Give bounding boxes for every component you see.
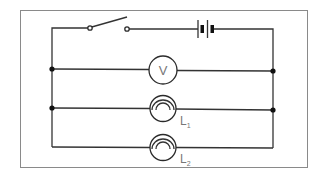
junction-dot bbox=[270, 68, 275, 73]
lamp-icon bbox=[150, 96, 176, 122]
lamp-l2-label: L2 bbox=[180, 152, 191, 167]
junction-dot bbox=[270, 107, 275, 112]
voltmeter-label: V bbox=[159, 63, 168, 78]
voltmeter-icon: V bbox=[149, 56, 177, 84]
lamp-l2-branch: L2 bbox=[52, 135, 273, 168]
switch-icon bbox=[88, 17, 129, 31]
circuit-diagram: V L1 L2 bbox=[0, 0, 319, 180]
lamp-icon bbox=[150, 135, 176, 161]
lamp-l1-label: L1 bbox=[180, 114, 191, 129]
battery-icon bbox=[198, 20, 214, 38]
junction-dot bbox=[49, 105, 54, 110]
voltmeter-branch: V bbox=[52, 56, 273, 84]
lamp-l1-branch: L1 bbox=[52, 96, 273, 130]
junction-dot bbox=[49, 66, 54, 71]
